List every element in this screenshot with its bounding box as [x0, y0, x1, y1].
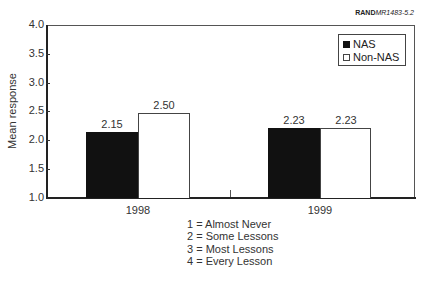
- y-tick: [46, 140, 50, 141]
- y-tick-label: 3.0: [22, 76, 44, 88]
- y-axis-title: Mean response: [6, 71, 18, 151]
- scale-key-item: 2 = Some Lessons: [187, 230, 278, 242]
- y-tick-label: 1.0: [22, 191, 44, 203]
- bar-nonnas-1999: [320, 128, 371, 198]
- y-tick: [46, 54, 50, 55]
- y-axis-line: [46, 25, 48, 199]
- legend-item-nas: NAS: [343, 38, 376, 50]
- legend: NAS Non-NAS: [338, 34, 406, 66]
- source-label: RANDMR1483-5.2: [355, 9, 414, 16]
- y-tick-label: 2.5: [22, 104, 44, 116]
- legend-item-nonnas: Non-NAS: [343, 51, 399, 63]
- scale-key-item: 1 = Almost Never: [187, 218, 278, 230]
- y-tick: [46, 83, 50, 84]
- value-label-nonnas-1999: 2.23: [321, 114, 371, 126]
- y-tick-label: 3.5: [22, 47, 44, 59]
- scale-key: 1 = Almost Never 2 = Some Lessons 3 = Mo…: [187, 218, 278, 267]
- value-label-nonnas-1998: 2.50: [139, 99, 189, 111]
- value-label-nas-1999: 2.23: [269, 114, 319, 126]
- legend-swatch-nonnas: [343, 54, 350, 61]
- bar-nonnas-1998: [138, 113, 190, 198]
- y-tick-label: 2.0: [22, 133, 44, 145]
- source-id: MR1483-5.2: [375, 9, 414, 16]
- value-label-nas-1998: 2.15: [87, 118, 137, 130]
- legend-label-nonnas: Non-NAS: [353, 51, 399, 63]
- category-separator-tick: [230, 190, 231, 197]
- y-tick-label: 1.5: [22, 162, 44, 174]
- y-tick-label: 4.0: [22, 18, 44, 30]
- scale-key-item: 3 = Most Lessons: [187, 243, 278, 255]
- legend-label-nas: NAS: [353, 38, 376, 50]
- source-org: RAND: [355, 9, 375, 16]
- y-tick: [46, 169, 50, 170]
- legend-swatch-nas: [343, 41, 350, 48]
- scale-key-item: 4 = Every Lesson: [187, 255, 278, 267]
- x-tick-label-1998: 1998: [118, 204, 158, 216]
- bar-nas-1999: [268, 128, 320, 198]
- x-tick-label-1999: 1999: [300, 204, 340, 216]
- bar-nas-1998: [86, 132, 138, 198]
- y-tick: [46, 111, 50, 112]
